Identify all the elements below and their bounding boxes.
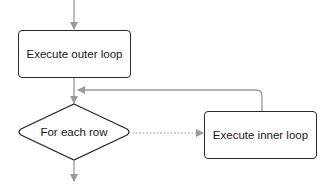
inner-loop-label: Execute inner loop (204, 111, 317, 159)
decision-label: For each row (19, 104, 129, 160)
outer-loop-label: Execute outer loop (18, 30, 131, 78)
